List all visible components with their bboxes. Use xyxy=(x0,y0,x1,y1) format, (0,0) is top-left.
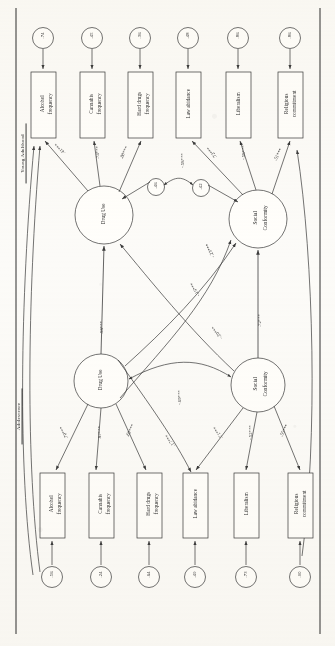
indicator-ad-liberalism: Liberalism xyxy=(244,472,250,536)
coef-stability-drug-use: .58*** xyxy=(99,308,104,348)
indicator-ya-harddrugs-line2: frequency xyxy=(145,72,151,136)
indicator-ad-harddrugs-line2: frequency xyxy=(154,472,160,536)
residual-ya-alcohol: .74 xyxy=(41,25,46,45)
residual-ya-lawabidance: .48 xyxy=(186,25,191,45)
coef-stability-social-conformity: .72*** xyxy=(257,301,262,341)
indicator-ad-harddrugs-line1: Hard drugs xyxy=(146,472,152,536)
panel-label-adolescence: Adolescence xyxy=(16,388,23,444)
factor-ya-social-conformity-line2: Conformity xyxy=(263,190,269,246)
indicator-ya-alcohol-line2: frequency xyxy=(48,72,54,136)
residual-ad-harddrugs: .64 xyxy=(147,564,152,584)
residual-ad-lawabidance: .49 xyxy=(193,564,198,584)
residual-ya-harddrugs: .36 xyxy=(138,25,143,45)
indicator-ya-cannabis-line1: Cannabis xyxy=(89,72,95,136)
ya-residual-arrows xyxy=(43,49,290,69)
indicator-ya-harddrugs-line1: Hard drugs xyxy=(137,72,143,136)
indicator-ya-liberalism: Liberalism xyxy=(236,72,242,136)
factor-ya-social-conformity-line1: Social xyxy=(253,190,259,246)
residual-ya-religious: .86 xyxy=(288,25,293,45)
indicator-ya-cannabis-line2: frequency xyxy=(97,72,103,136)
coef-ad-factor-correlation: -.69*** xyxy=(177,378,182,418)
d-to-social-conformity-arrow xyxy=(208,185,238,202)
panel-label-young-adulthood: Young Adulthood xyxy=(20,123,27,183)
ad-residual-arrows xyxy=(52,541,300,565)
d-to-drug-use-arrow xyxy=(122,182,150,199)
disturbance-ya-social-conformity: .42 xyxy=(199,177,204,195)
ad-indicator-boxes xyxy=(40,473,313,538)
factor-ad-social-conformity-line2: Conformity xyxy=(263,356,269,412)
indicator-ya-lawabidance: Law abidance xyxy=(186,72,192,136)
cross-path-du-to-sc xyxy=(125,243,236,366)
indicator-ad-alcohol-line2: frequency xyxy=(57,472,63,536)
residual-ad-alcohol: .56 xyxy=(50,564,55,584)
factor-ya-drug-use: Drug Use xyxy=(101,189,107,239)
residual-ya-cannabis: .45 xyxy=(90,25,95,45)
indicator-ya-religious-line2: commitment xyxy=(292,72,298,136)
ad-residual-circles xyxy=(42,567,311,588)
coef-ya-disturbance-correlation: -.58*** xyxy=(180,141,185,181)
indicator-ya-religious-line1: Religious xyxy=(284,72,290,136)
ya-disturbance-correlation xyxy=(164,178,193,185)
ya-indicator-boxes xyxy=(31,72,303,138)
factor-ad-drug-use: Drug Use xyxy=(98,355,104,405)
disturbance-ya-drug-use: .46 xyxy=(154,176,159,194)
residual-ya-liberalism: .86 xyxy=(236,25,241,45)
indicator-ad-religious-line1: Religious xyxy=(294,472,300,536)
coef-ad-drug-cannabis: .87*** xyxy=(97,413,102,453)
factor-ad-social-conformity-line1: Social xyxy=(253,356,259,412)
plate-frame xyxy=(16,8,320,634)
indicator-ad-lawabidance: Law abidance xyxy=(193,472,199,536)
residual-ad-cannabis: .24 xyxy=(99,564,104,584)
indicator-ad-religious-line2: commitment xyxy=(302,472,308,536)
coef-ya-drug-cannabis: .74*** xyxy=(95,133,100,173)
indicator-ya-alcohol-line1: Alcohol xyxy=(40,72,46,136)
coef-ya-sc-liberalism: -.58*** xyxy=(241,133,246,173)
indicator-ad-alcohol-line1: Alcohol xyxy=(49,472,55,536)
indicator-ad-cannabis-line1: Cannabis xyxy=(98,472,104,536)
residual-ad-religious: .90 xyxy=(298,564,303,584)
coef-ad-sc-liberalism: -.52*** xyxy=(248,413,253,453)
indicator-ad-cannabis-line2: frequency xyxy=(106,472,112,536)
figure-page: .ln{stroke:#3d3d3d;stroke-width:0.72;fil… xyxy=(0,0,335,646)
residual-ad-liberalism: .73 xyxy=(244,564,249,584)
ya-residual-circles xyxy=(33,28,301,49)
